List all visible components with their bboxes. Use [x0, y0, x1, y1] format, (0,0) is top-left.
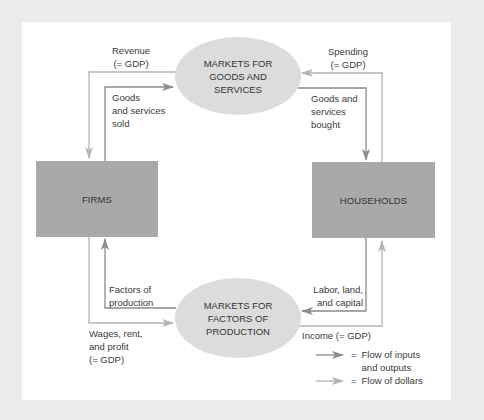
- legend-item-inputs-outputs: = Flow of inputs and outputs: [351, 348, 420, 374]
- factors-label-line-2: production: [109, 296, 153, 309]
- wages-label-line-1: Wages, rent,: [89, 327, 143, 340]
- labor-label-line-2: and capital: [305, 296, 363, 309]
- revenue-label: Revenue (= GDP): [112, 44, 150, 70]
- spending-label: Spending (= GDP): [328, 45, 368, 71]
- firms-label: FIRMS: [82, 194, 112, 205]
- factors-market-line-3: PRODUCTION: [204, 325, 273, 338]
- goods-sold-label-line-1: Goods: [112, 91, 165, 104]
- spending-label-line-1: Spending: [328, 45, 368, 58]
- goods-sold-label-line-3: sold: [112, 117, 165, 130]
- legend-equals-1: =: [351, 348, 357, 374]
- legend-dollars-line-1: Flow of dollars: [362, 374, 423, 387]
- goods-market-line-1: MARKETS FOR: [204, 57, 273, 70]
- goods-market-line-3: SERVICES: [204, 83, 273, 96]
- wages-flow-arrow: [89, 236, 173, 323]
- goods-bought-label-line-2: services: [311, 105, 357, 118]
- goods-services-market-ellipse: MARKETS FOR GOODS AND SERVICES: [175, 37, 301, 115]
- factors-label: Factors of production: [109, 283, 153, 309]
- spending-label-line-2: (= GDP): [328, 58, 368, 71]
- goods-bought-label-line-3: bought: [311, 118, 357, 131]
- goods-sold-label: Goods and services sold: [112, 91, 165, 130]
- labor-label: Labor, land, and capital: [305, 283, 363, 309]
- income-label: Income (= GDP): [302, 329, 371, 342]
- factors-production-market-ellipse: MARKETS FOR FACTORS OF PRODUCTION: [175, 278, 301, 358]
- households-label: HOUSEHOLDS: [340, 195, 408, 206]
- goods-bought-label-line-1: Goods and: [311, 92, 357, 105]
- goods-sold-label-line-2: and services: [112, 104, 165, 117]
- labor-label-line-1: Labor, land,: [305, 283, 363, 296]
- factors-market-line-2: FACTORS OF: [204, 312, 273, 325]
- factors-market-line-1: MARKETS FOR: [204, 299, 273, 312]
- factors-label-line-1: Factors of: [109, 283, 153, 296]
- legend-equals-2: =: [351, 374, 357, 387]
- firms-box: FIRMS: [36, 161, 158, 237]
- wages-label: Wages, rent, and profit (= GDP): [89, 327, 143, 366]
- goods-bought-label: Goods and services bought: [311, 92, 357, 131]
- revenue-label-line-1: Revenue: [112, 44, 150, 57]
- legend-item-dollars: = Flow of dollars: [351, 374, 423, 387]
- wages-label-line-3: (= GDP): [89, 353, 143, 366]
- revenue-label-line-2: (= GDP): [112, 57, 150, 70]
- households-box: HOUSEHOLDS: [312, 162, 435, 238]
- wages-label-line-2: and profit: [89, 340, 143, 353]
- income-label-text: Income (= GDP): [302, 329, 371, 342]
- legend-inputs-line-1: Flow of inputs: [362, 348, 421, 361]
- legend-inputs-line-2: and outputs: [362, 361, 421, 374]
- goods-market-line-2: GOODS AND: [204, 70, 273, 83]
